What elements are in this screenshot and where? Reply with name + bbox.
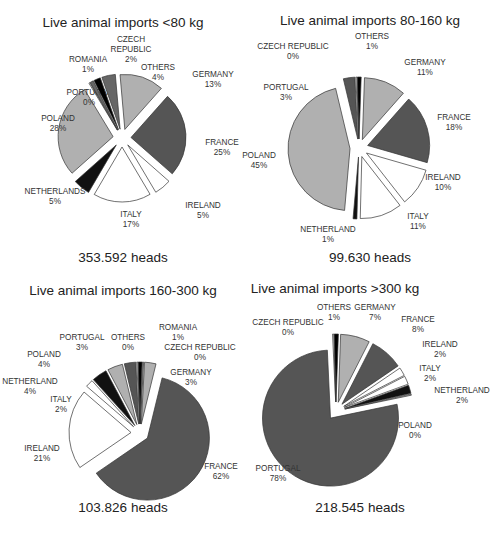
slice-italy (94, 147, 150, 202)
slice-label: NETHERLANDS5% (25, 187, 87, 206)
slice-label: NETHERLAND2% (434, 386, 490, 405)
slice-netherland (353, 157, 358, 219)
slice-label: IRELAND2% (422, 340, 458, 359)
slice-label: CZECHREPUBLIC2% (111, 35, 152, 64)
slice-label: IRELAND5% (185, 201, 221, 220)
slice-label: ITALY2% (50, 395, 72, 414)
slice-label: OTHERS0% (111, 333, 146, 352)
slice-label: CZECH REPUBLIC0% (164, 343, 236, 362)
slice-label: NETHERLAND1% (300, 225, 356, 244)
slice-label: FRANCE25% (205, 138, 239, 157)
slice-label: PORTUGAL3% (60, 333, 105, 352)
slice-label: FRANCE8% (401, 315, 435, 334)
slice-label: NETHERLAND4% (2, 377, 58, 396)
slice-label: IRELAND21% (24, 444, 60, 463)
slice-label: ITALY17% (120, 210, 142, 229)
slice-label: ITALY11% (407, 212, 429, 231)
slice-label: POLAND45% (242, 151, 276, 170)
slice-label: ITALY2% (419, 364, 441, 383)
slice-label: CZECH REPUBLIC0% (252, 318, 324, 337)
slice-label: ROMANIA1% (69, 55, 108, 74)
slice-label: POLAND4% (27, 350, 61, 369)
slice-poland (288, 88, 350, 210)
pie-chart-2: GERMANY3%FRANCE62%IRELAND21%ITALY2%NETHE… (2, 323, 238, 500)
slice-label: PORTUGAL3% (264, 83, 309, 102)
slice-label: ROMANIA1% (159, 323, 198, 342)
slice-label: FRANCE18% (437, 113, 471, 132)
slice-others (334, 334, 338, 402)
pie-chart-1: GERMANY11%FRANCE18%IRELAND10%ITALY11%NET… (242, 32, 471, 244)
slice-label: IRELAND10% (425, 173, 461, 192)
slice-label: POLAND0% (398, 421, 432, 440)
slice-label: GERMANY13% (192, 70, 234, 89)
pie-chart-3: GERMANY7%FRANCE8%IRELAND2%ITALY2%NETHERL… (252, 303, 490, 486)
slice-label: OTHERS1% (355, 32, 390, 51)
slice-label: CZECH REPUBLIC0% (257, 42, 329, 61)
pie-chart-0: GERMANY13%FRANCE25%IRELAND5%ITALY17%NETH… (25, 35, 240, 229)
pie-charts-canvas: GERMANY13%FRANCE25%IRELAND5%ITALY17%NETH… (0, 0, 493, 536)
slice-label: GERMANY7% (354, 303, 396, 322)
slice-label: FRANCE62% (204, 462, 238, 481)
